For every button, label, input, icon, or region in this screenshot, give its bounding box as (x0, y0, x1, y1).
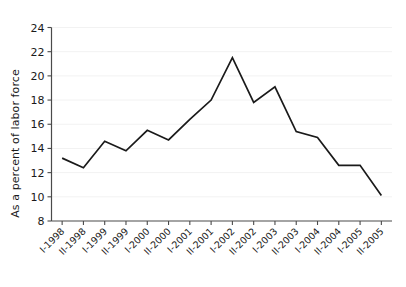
x-axis-labels-group: I-1998II-1998I-1999II-1999I-2000II-2000I… (37, 226, 386, 257)
chart-container: As a percent of labor force 810121416182… (0, 0, 406, 287)
y-tick-label: 10 (31, 191, 45, 204)
gridlines-group (52, 28, 393, 197)
y-tick-label: 16 (31, 118, 45, 131)
y-tick-label: 8 (38, 215, 45, 228)
y-tick-label: 18 (31, 94, 45, 107)
y-tick-label: 24 (31, 22, 45, 35)
x-axis-ticks-group (62, 221, 381, 225)
line-chart-plot: 81012141618202224 I-1998II-1998I-1999II-… (0, 0, 406, 287)
y-tick-label: 22 (31, 46, 45, 59)
data-series-line (62, 58, 381, 196)
y-tick-label: 20 (31, 70, 45, 83)
y-axis-ticks-group: 81012141618202224 (31, 22, 52, 229)
y-tick-label: 14 (31, 142, 45, 155)
y-tick-label: 12 (31, 167, 45, 180)
